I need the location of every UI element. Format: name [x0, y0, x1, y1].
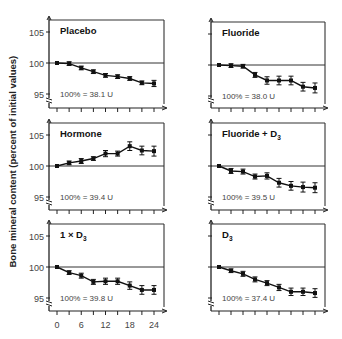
- data-point: [140, 149, 144, 153]
- data-point: [91, 157, 95, 161]
- data-point: [67, 271, 71, 275]
- data-point: [79, 159, 83, 163]
- data-point: [217, 164, 221, 168]
- panel-annotation: 100% = 38.0 U: [222, 92, 275, 101]
- data-point: [104, 73, 108, 77]
- panel-title: Fluoride: [222, 27, 259, 38]
- y-tick-label: 95: [34, 294, 44, 304]
- panel-annotation: 100% = 39.5 U: [222, 193, 275, 202]
- figure-canvas: 95100105Placebo100% = 38.1 UFluoride100%…: [0, 0, 342, 339]
- y-tick-label: 100: [29, 162, 44, 172]
- data-point: [289, 184, 293, 188]
- panel-hormone: 95100105Hormone100% = 39.4 U: [29, 119, 167, 214]
- data-point: [313, 291, 317, 295]
- data-point: [128, 284, 132, 288]
- data-point: [241, 64, 245, 68]
- data-point: [229, 64, 233, 68]
- data-point: [67, 161, 71, 165]
- data-point: [265, 281, 269, 285]
- data-point: [253, 175, 257, 179]
- y-tick-label: 105: [29, 232, 44, 242]
- panel-annotation: 100% = 37.4 U: [222, 294, 275, 303]
- data-point: [104, 279, 108, 283]
- data-point: [217, 265, 221, 269]
- data-point: [140, 288, 144, 292]
- data-point: [91, 280, 95, 284]
- data-point: [313, 86, 317, 90]
- panel-fluoride-d3: Fluoride + D3100% = 39.5 U: [208, 119, 328, 214]
- data-point: [229, 269, 233, 273]
- data-point: [55, 164, 59, 168]
- data-point: [128, 77, 132, 81]
- data-point: [289, 290, 293, 294]
- x-tick-label: 24: [149, 320, 159, 330]
- x-tick-label: 0: [54, 320, 59, 330]
- data-point: [241, 170, 245, 174]
- data-point: [277, 181, 281, 185]
- panel-annotation: 100% = 38.1 U: [60, 90, 113, 99]
- data-point: [277, 285, 281, 289]
- data-point: [265, 79, 269, 83]
- x-tick-label: 18: [125, 320, 135, 330]
- data-point: [79, 274, 83, 278]
- data-point: [301, 85, 305, 89]
- data-point: [241, 272, 245, 276]
- data-point: [152, 288, 156, 292]
- data-point: [140, 81, 144, 85]
- panel-1-d3: 951001051 × D3100% = 39.8 U06121824: [29, 220, 167, 330]
- data-point: [253, 277, 257, 281]
- x-tick-label: 6: [79, 320, 84, 330]
- panel-title: D3: [222, 229, 233, 242]
- data-point: [116, 279, 120, 283]
- y-tick-label: 100: [29, 59, 44, 69]
- y-tick-label: 100: [29, 263, 44, 273]
- panel-title: 1 × D3: [60, 229, 87, 242]
- data-point: [265, 174, 269, 178]
- panel-title: Fluoride + D3: [222, 128, 281, 141]
- data-point: [313, 186, 317, 190]
- data-point: [301, 185, 305, 189]
- data-point: [217, 63, 221, 67]
- y-tick-label: 105: [29, 131, 44, 141]
- data-point: [229, 169, 233, 173]
- data-point: [301, 290, 305, 294]
- data-point: [116, 75, 120, 79]
- data-point: [128, 144, 132, 148]
- panel-placebo: 95100105Placebo100% = 38.1 U: [29, 16, 167, 112]
- data-point: [55, 61, 59, 65]
- data-point: [277, 79, 281, 83]
- data-point: [253, 73, 257, 77]
- data-point: [55, 265, 59, 269]
- data-point: [152, 81, 156, 85]
- panel-annotation: 100% = 39.8 U: [60, 294, 113, 303]
- data-point: [79, 66, 83, 70]
- data-point: [152, 149, 156, 153]
- panel-fluoride: Fluoride100% = 38.0 U: [208, 18, 328, 112]
- y-tick-label: 95: [34, 90, 44, 100]
- x-tick-label: 12: [100, 320, 110, 330]
- panel-title: Hormone: [60, 128, 102, 139]
- panel-title: Placebo: [60, 25, 97, 36]
- data-line: [219, 267, 315, 293]
- data-point: [91, 70, 95, 74]
- panel-annotation: 100% = 39.4 U: [60, 193, 113, 202]
- y-tick-label: 95: [34, 193, 44, 203]
- data-point: [104, 152, 108, 156]
- panel-d3: D3100% = 37.4 U: [208, 220, 328, 315]
- y-tick-label: 105: [29, 28, 44, 38]
- data-point: [67, 62, 71, 66]
- data-point: [289, 79, 293, 83]
- data-point: [116, 152, 120, 156]
